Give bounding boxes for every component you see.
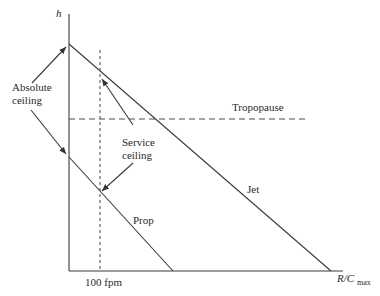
absolute-ceiling-label-2: ceiling — [12, 94, 42, 106]
service-ceiling-arrow-prop — [102, 163, 133, 191]
jet-line — [69, 44, 331, 271]
absolute-ceiling-arrow-jet — [32, 47, 66, 83]
absolute-ceiling-label-1: Absolute — [12, 81, 52, 93]
service-ceiling-label-1: Service — [122, 136, 155, 148]
y-axis-label: h — [56, 7, 62, 19]
x-tick-label: 100 fpm — [85, 276, 122, 288]
x-axis-label-sub: max — [357, 278, 371, 287]
tropopause-label: Tropopause — [232, 101, 284, 113]
ceiling-diagram: h Absolute ceiling Service ceiling Tropo… — [0, 0, 380, 296]
x-axis-label: R/C — [336, 272, 355, 284]
prop-label: Prop — [133, 214, 154, 226]
service-ceiling-label-2: ceiling — [122, 149, 152, 161]
absolute-ceiling-arrow-prop — [31, 110, 66, 154]
jet-label: Jet — [247, 183, 259, 195]
